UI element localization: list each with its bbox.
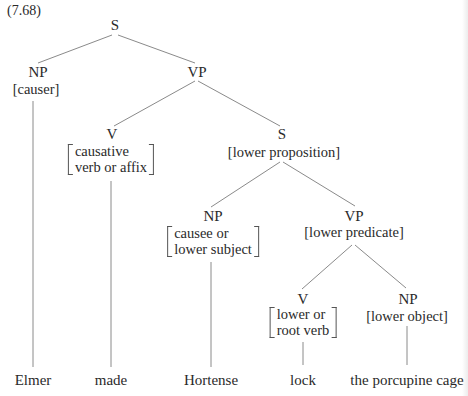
- node-np-causer: NP: [28, 65, 47, 80]
- right-bracket: [149, 144, 154, 175]
- left-bracket: [68, 144, 73, 175]
- feature-line: causee or: [174, 226, 252, 242]
- word-porcupine-cage: the porcupine cage: [350, 372, 463, 389]
- feature-causee: causee or lower subject: [167, 226, 259, 257]
- feature-lower-proposition: [lower proposition]: [228, 145, 340, 161]
- branch-vp-v-lower: [302, 245, 352, 289]
- feature-lower-object: [lower object]: [366, 309, 448, 325]
- feature-causative: causative verb or affix: [68, 144, 154, 175]
- feature-causer: [causer]: [13, 82, 60, 98]
- feature-line: lower subject: [174, 242, 252, 258]
- example-number: (7.68): [7, 3, 41, 19]
- node-vp-lower: VP: [344, 209, 363, 224]
- feature-line: causative: [75, 144, 147, 160]
- node-v-root: V: [298, 292, 309, 307]
- branch-s-np: [38, 35, 112, 63]
- feature-root-verb: lower or root verb: [270, 307, 337, 338]
- branch-vp-v: [114, 81, 195, 126]
- feature-line: verb or affix: [75, 160, 147, 176]
- feature-line: root verb: [277, 323, 330, 339]
- branch-vp-s: [198, 81, 280, 126]
- node-s-root: S: [111, 18, 119, 33]
- left-bracket: [270, 307, 275, 338]
- word-hortense: Hortense: [184, 372, 238, 389]
- word-lock: lock: [290, 372, 316, 389]
- left-bracket: [167, 226, 172, 257]
- feature-line: lower or: [277, 307, 330, 323]
- tree-branches: [0, 0, 468, 396]
- word-made: made: [95, 372, 127, 389]
- right-bracket: [254, 226, 259, 257]
- node-np-object: NP: [398, 292, 417, 307]
- branch-s-np-lower: [211, 162, 280, 207]
- branch-s-vp-lower: [283, 162, 355, 206]
- node-np-causee: NP: [203, 209, 222, 224]
- node-vp: VP: [187, 65, 206, 80]
- branch-vp-np-lower: [355, 245, 406, 288]
- word-elmer: Elmer: [15, 372, 52, 389]
- right-bracket: [331, 307, 336, 338]
- branch-s-vp: [118, 35, 195, 63]
- feature-lower-predicate: [lower predicate]: [304, 225, 403, 241]
- node-s-lower: S: [278, 127, 286, 142]
- node-v-causative: V: [107, 127, 118, 142]
